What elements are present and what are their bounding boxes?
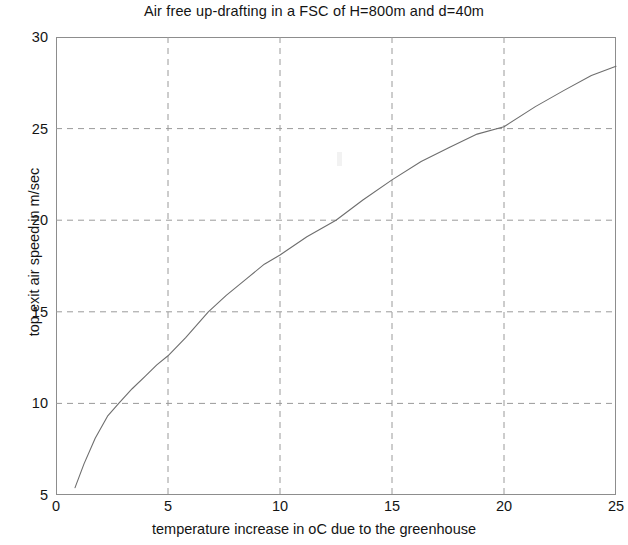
scan-artifact	[337, 152, 342, 166]
x-axis-tick-label: 25	[608, 498, 624, 514]
x-axis-tick-label: 5	[164, 498, 172, 514]
data-line-series	[56, 37, 616, 495]
data-line	[75, 66, 616, 487]
y-axis-title: top exit air speed in m/sec	[26, 122, 42, 382]
x-axis-tick-label: 10	[272, 498, 288, 514]
x-axis-tick-labels: 0510152025	[56, 498, 616, 518]
chart-title: Air free up-drafting in a FSC of H=800m …	[0, 3, 628, 19]
x-axis-tick-label: 0	[52, 498, 60, 514]
y-axis-tick-label: 10	[4, 395, 48, 411]
y-axis-tick-label: 5	[4, 487, 48, 503]
x-axis-tick-label: 20	[496, 498, 512, 514]
y-axis-tick-label: 30	[4, 29, 48, 45]
chart-figure: Air free up-drafting in a FSC of H=800m …	[0, 0, 628, 545]
plot-area	[56, 37, 616, 495]
x-axis-tick-label: 15	[384, 498, 400, 514]
x-axis-title: temperature increase in oC due to the gr…	[0, 521, 628, 537]
